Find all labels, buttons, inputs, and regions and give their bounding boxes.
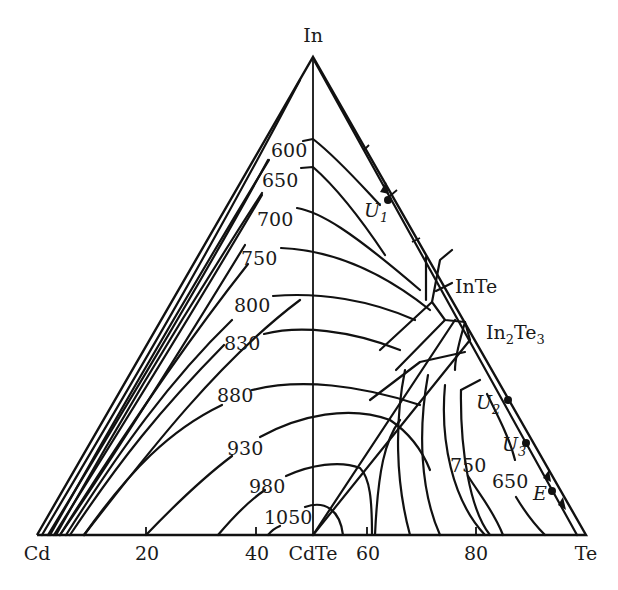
isotherm-label-600: 600 [271, 139, 307, 161]
vertex-cd-label: Cd [24, 542, 51, 564]
u1-point [384, 196, 392, 204]
isotherm-label-880: 880 [217, 384, 253, 406]
isotherm-label-1050: 1050 [264, 506, 312, 528]
isotherm-label-800: 800 [234, 294, 270, 316]
isotherm-label-930: 930 [227, 437, 263, 459]
axis-tick-20: 20 [135, 542, 159, 564]
compound-in2te3-label: In2Te3 [486, 321, 545, 347]
vertex-te-label: Te [575, 542, 597, 564]
compound-cdte-label: CdTe [288, 542, 337, 564]
isotherm-label-650: 650 [262, 169, 298, 191]
isotherm-label-980: 980 [249, 475, 285, 497]
axis-tick-80: 80 [464, 542, 488, 564]
e-point [548, 487, 556, 495]
u2-point [504, 396, 512, 404]
invariant-e-label: E [532, 482, 547, 504]
monovariant-lines [315, 62, 577, 535]
invariant-u1-label: U1 [364, 199, 388, 225]
invariant-u2-label: U2 [476, 391, 500, 417]
axis-tick-60: 60 [356, 542, 380, 564]
isotherm-label-750: 750 [241, 247, 277, 269]
ternary-phase-diagram: In Cd Te CdTe InTe In2Te3 20 40 60 80 60… [0, 0, 618, 590]
isotherm-label-te-750: 750 [450, 454, 486, 476]
vertex-in-label: In [303, 24, 323, 46]
isotherm-label-700: 700 [257, 208, 293, 230]
isotherm-label-830: 830 [224, 332, 260, 354]
isotherm-label-te-650: 650 [492, 470, 528, 492]
compound-inte-label: InTe [455, 275, 497, 297]
axis-tick-40: 40 [245, 542, 269, 564]
